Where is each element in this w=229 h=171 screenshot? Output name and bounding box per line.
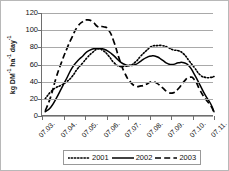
series-line-2002	[45, 48, 214, 112]
y-axis-tick-label: 100	[25, 26, 38, 34]
x-axis-tick-label: 07.04.	[59, 120, 78, 139]
y-axis-tick-label: 60	[30, 61, 38, 69]
y-axis-tick-label: 40	[30, 78, 38, 86]
y-axis-tick-mark	[38, 30, 42, 31]
y-axis-tick-label: 80	[30, 44, 38, 52]
y-axis-tick-mark	[38, 99, 42, 100]
gridline	[42, 99, 213, 100]
y-axis-tick-mark	[38, 82, 42, 83]
gridline	[42, 30, 213, 31]
legend-swatch-dotted	[68, 155, 90, 161]
x-axis-tick-label: 07.07.	[123, 120, 142, 139]
x-axis-tick-label: 07.06.	[102, 120, 121, 139]
y-axis-tick-labels: 020406080100120	[18, 9, 40, 119]
gridline	[42, 65, 213, 66]
chart-figure: kg DM-1 ha-1 day-1 020406080100120 07.03…	[0, 0, 229, 171]
y-axis-tick-mark	[38, 13, 42, 14]
x-axis-tick-label: 07.05.	[80, 120, 99, 139]
gridline	[42, 13, 213, 14]
legend-item-2002[interactable]: 2002	[112, 154, 153, 162]
legend-label: 2002	[136, 154, 153, 162]
legend-label: 2001	[92, 154, 109, 162]
y-axis-tick-mark	[38, 47, 42, 48]
gridline	[42, 82, 213, 83]
y-axis-title-container: kg DM-1 ha-1 day-1	[3, 13, 19, 117]
x-axis-tick-labels: 07.03.07.04.07.05.07.06.07.07.07.08.07.0…	[41, 118, 221, 144]
x-axis-tick-label: 07.10.	[188, 120, 207, 139]
x-axis-tick-label: 07.08.	[145, 120, 164, 139]
legend-item-2003[interactable]: 2003	[155, 154, 196, 162]
gridline	[42, 47, 213, 48]
y-axis-tick-mark	[38, 65, 42, 66]
x-axis-tick-label: 07.03.	[37, 120, 56, 139]
legend-item-2001[interactable]: 2001	[68, 154, 109, 162]
y-axis-title: kg DM-1 ha-1 day-1	[6, 36, 15, 95]
y-axis-tick-label: 120	[25, 9, 38, 17]
chart-legend: 200120022003	[63, 150, 201, 165]
x-axis-tick-label: 07.11.	[210, 120, 228, 138]
x-axis-tick-label: 07.09.	[166, 120, 185, 139]
legend-label: 2003	[179, 154, 196, 162]
plot-area	[41, 13, 213, 116]
legend-swatch-solid	[112, 155, 134, 161]
y-axis-tick-label: 20	[30, 95, 38, 103]
legend-swatch-dashed	[155, 155, 177, 161]
